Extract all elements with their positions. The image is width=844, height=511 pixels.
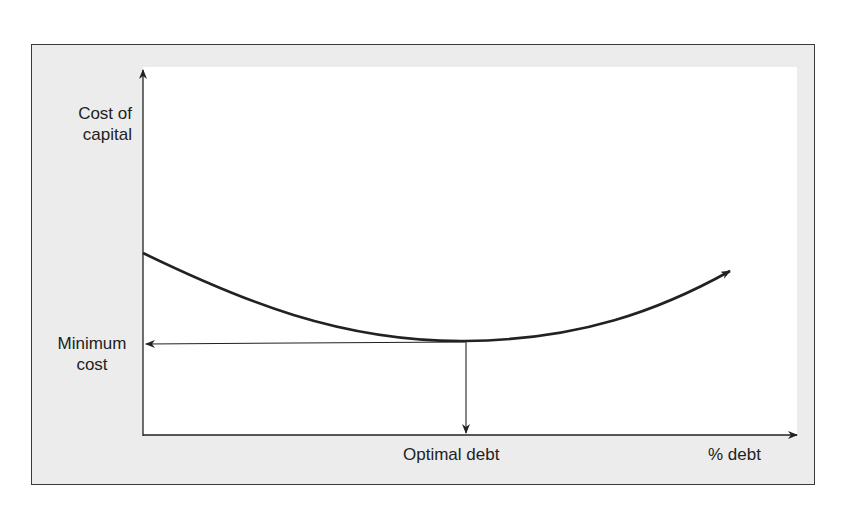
chart-svg: [0, 0, 844, 511]
minimum-cost-label-line1: Minimum: [44, 333, 140, 354]
y-axis-label-line2: capital: [40, 124, 132, 145]
optimal-debt-label: Optimal debt: [403, 444, 499, 465]
cost-curve: [143, 253, 730, 341]
minimum-cost-arrow: [146, 342, 465, 344]
minimum-cost-label: Minimum cost: [44, 333, 140, 375]
x-axis-label: % debt: [708, 444, 761, 465]
minimum-cost-label-line2: cost: [44, 354, 140, 375]
y-axis-label-line1: Cost of: [40, 103, 132, 124]
y-axis-label: Cost of capital: [40, 103, 132, 145]
